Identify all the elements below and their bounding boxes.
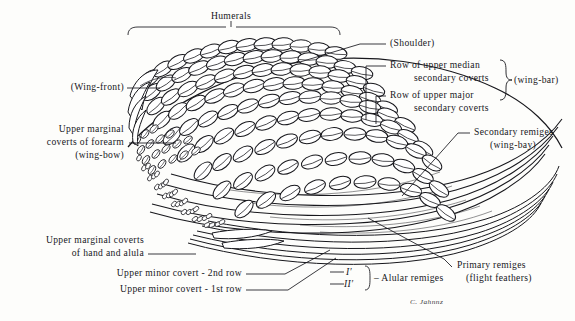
label-major-coverts-line1: Row of upper major (390, 89, 474, 102)
label-alular-remiges: – Alular remiges (374, 272, 444, 285)
label-humerals: Humerals (186, 10, 276, 23)
label-secondary-remiges-line2: (wing-bay) (490, 139, 536, 152)
humerals-bracket-left (128, 27, 226, 35)
label-primary-remiges-line2: (flight feathers) (466, 272, 532, 285)
label-upper-marginal-hand-line2: of hand and alula (6, 247, 144, 260)
label-wing-front: (Wing-front) (10, 81, 124, 94)
wing-body (127, 21, 562, 290)
label-alular-remige-2: II′ (344, 278, 354, 291)
label-alular-remige-1: I′ (346, 266, 352, 279)
label-upper-marginal-forearm-line2: coverts of forearm (6, 136, 124, 149)
label-upper-marginal-forearm-line3: (wing-bow) (6, 149, 124, 162)
artist-signature: C. Jahnnz (410, 297, 443, 305)
humerals-bracket-right (236, 27, 340, 35)
label-minor-covert-1st-row: Upper minor covert - 1st row (60, 283, 242, 296)
label-upper-marginal-forearm-line1: Upper marginal (6, 123, 124, 136)
label-secondary-remiges-line1: Secondary remiges (474, 126, 553, 139)
alular-brace (365, 266, 370, 290)
label-median-coverts-line1: Row of upper median (390, 59, 480, 72)
label-major-coverts-line2: secondary coverts (414, 102, 489, 115)
wing-anatomy-figure: Humerals (Wing-front) Upper marginal cov… (0, 0, 575, 321)
label-primary-remiges-line1: Primary remiges (457, 259, 526, 272)
label-wing-bar: (wing-bar) (514, 74, 559, 87)
wing-bar-brace (500, 60, 512, 100)
label-shoulder: (Shoulder) (390, 37, 435, 50)
label-upper-marginal-hand-line1: Upper marginal coverts (6, 234, 144, 247)
label-median-coverts-line2: secondary coverts (414, 72, 489, 85)
label-minor-covert-2nd-row: Upper minor covert - 2nd row (60, 267, 242, 280)
